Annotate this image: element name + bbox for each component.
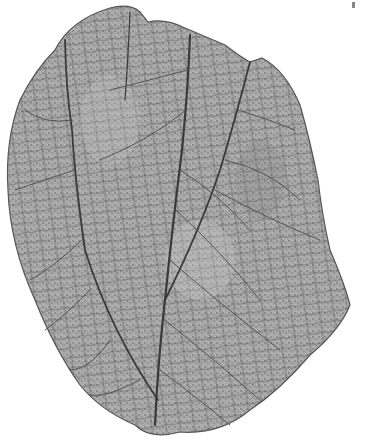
leaf-illustration	[0, 0, 378, 447]
